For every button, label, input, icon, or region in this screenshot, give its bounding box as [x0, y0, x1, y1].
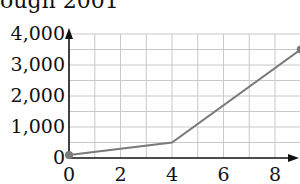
y-tick-label: 4,000 [11, 22, 65, 44]
x-tick-label: 2 [114, 163, 126, 184]
x-tick-label: 8 [269, 163, 281, 184]
line-chart: 01,0002,0003,0004,00002468 [0, 0, 300, 184]
x-axis-arrow-icon [288, 154, 299, 162]
x-tick-label: 0 [63, 163, 75, 184]
y-tick-label: 1,000 [11, 115, 65, 137]
y-tick-label: 2,000 [11, 84, 65, 106]
data-point-start [65, 151, 73, 159]
x-tick-label: 4 [166, 163, 178, 184]
y-tick-label: 3,000 [11, 53, 65, 75]
x-tick-label: 6 [217, 163, 229, 184]
